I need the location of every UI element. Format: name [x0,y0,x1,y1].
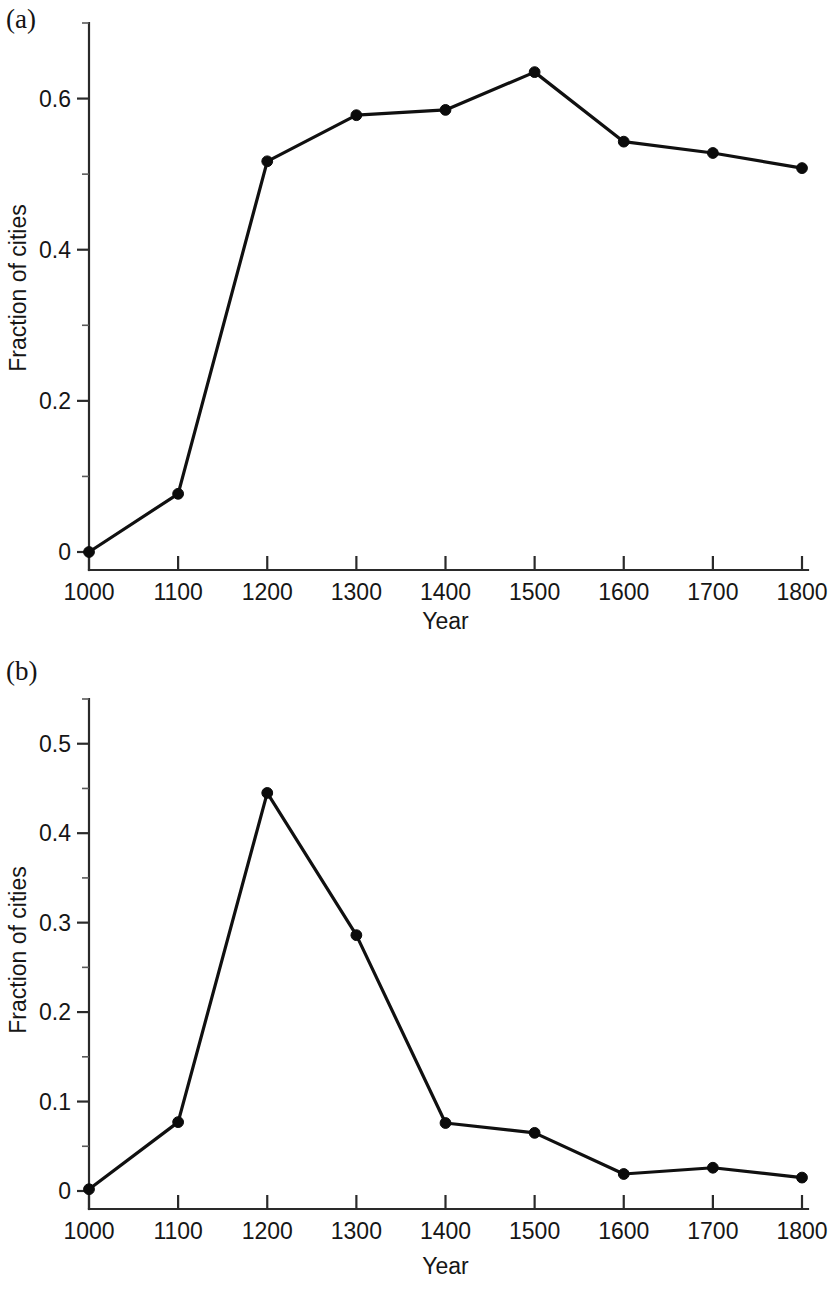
data-point-marker [173,488,184,499]
x-tick-label: 1100 [153,579,202,605]
series-line [89,72,802,552]
series-line [89,793,802,1189]
x-tick-label: 1300 [331,579,382,605]
x-tick-label: 1200 [242,579,293,605]
y-tick-label: 0.5 [39,731,71,757]
x-tick-label: 1000 [63,1218,114,1244]
data-point-marker [618,1169,629,1180]
data-point-marker [797,163,808,174]
x-tick-label: 1800 [776,1218,827,1244]
y-tick-label: 0.2 [39,999,71,1025]
y-tick-label: 0.2 [39,388,71,414]
x-tick-label: 1600 [598,579,649,605]
data-point-marker [797,1172,808,1183]
figure-two-panel-line-charts: (a) 00.20.40.610001100120013001400150016… [0,0,832,1295]
data-point-marker [440,105,451,116]
y-tick-label: 0.4 [39,237,71,263]
x-tick-label: 1200 [242,1218,293,1244]
panel-a: (a) 00.20.40.610001100120013001400150016… [0,0,832,650]
data-point-marker [618,136,629,147]
data-point-marker [84,547,95,558]
x-tick-label: 1000 [63,579,114,605]
data-point-marker [262,788,273,799]
data-point-marker [351,110,362,121]
data-point-marker [440,1118,451,1129]
x-axis-title: Year [422,1253,469,1279]
y-tick-label: 0.1 [39,1089,71,1115]
data-point-marker [84,1184,95,1195]
y-tick-label: 0 [58,539,71,565]
x-tick-label: 1400 [420,579,471,605]
y-tick-label: 0 [58,1178,71,1204]
data-point-marker [173,1117,184,1128]
y-axis-title: Fraction of cities [5,866,31,1033]
x-tick-label: 1500 [509,579,560,605]
x-tick-label: 1500 [509,1218,560,1244]
x-tick-label: 1300 [331,1218,382,1244]
x-tick-label: 1700 [687,579,738,605]
x-axis-title: Year [422,608,469,634]
data-point-marker [707,148,718,159]
data-point-marker [262,156,273,167]
y-tick-label: 0.3 [39,910,71,936]
x-tick-label: 1800 [776,579,827,605]
y-tick-label: 0.6 [39,86,71,112]
panel-b: (b) 00.10.20.30.40.510001100120013001400… [0,650,832,1295]
x-tick-label: 1100 [153,1218,202,1244]
x-tick-label: 1600 [598,1218,649,1244]
y-tick-label: 0.4 [39,820,71,846]
y-axis-title: Fraction of cities [5,204,31,371]
data-point-marker [529,1127,540,1138]
panel-b-plot: 00.10.20.30.40.5100011001200130014001500… [0,650,832,1295]
x-tick-label: 1400 [420,1218,471,1244]
x-tick-label: 1700 [687,1218,738,1244]
data-point-marker [351,930,362,941]
data-point-marker [707,1162,718,1173]
data-point-marker [529,67,540,78]
panel-a-plot: 00.20.40.6100011001200130014001500160017… [0,0,832,650]
